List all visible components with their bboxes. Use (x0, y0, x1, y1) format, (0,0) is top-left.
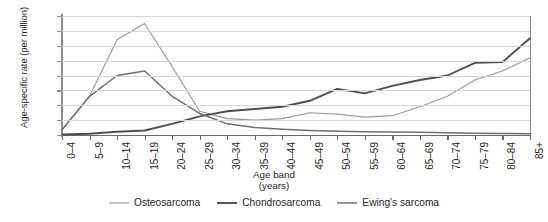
x-tick-mark (475, 135, 476, 140)
x-tick-label: 75–79 (479, 142, 490, 170)
x-tick-label: 60–64 (396, 142, 407, 170)
legend-line-icon (217, 200, 237, 206)
x-tick-label: 15–19 (149, 142, 160, 170)
x-tick-mark (420, 135, 421, 140)
gridline (62, 76, 530, 77)
y-tick-mark (57, 90, 61, 91)
legend-item[interactable]: Chondrosarcoma (217, 197, 320, 208)
legend-item[interactable]: Osteosarcoma (109, 197, 200, 208)
x-tick-label: 45–49 (314, 142, 325, 170)
series-line (62, 71, 530, 134)
y-tick-mark (57, 46, 61, 47)
gridline (62, 120, 530, 121)
legend-label: Chondrosarcoma (242, 197, 320, 208)
x-tick-label: 30–34 (231, 142, 242, 170)
gridline (62, 135, 530, 136)
x-tick-mark (392, 135, 393, 140)
x-axis-title: Age band (years) (0, 170, 548, 191)
gridline (62, 46, 530, 47)
y-tick-mark (57, 105, 61, 106)
x-tick-mark (145, 135, 146, 140)
gridline (62, 90, 530, 91)
x-tick-label: 35–39 (259, 142, 270, 170)
x-tick-mark (447, 135, 448, 140)
y-tick-mark (57, 61, 61, 62)
x-tick-label: 40–44 (286, 142, 297, 170)
x-tick-mark (172, 135, 173, 140)
x-tick-label: 85+ (534, 142, 545, 159)
x-tick-mark (255, 135, 256, 140)
legend-item[interactable]: Ewing's sarcoma (337, 197, 439, 208)
x-tick-mark (365, 135, 366, 140)
x-tick-label: 80–84 (506, 142, 517, 170)
x-tick-label: 65–69 (424, 142, 435, 170)
x-tick-mark (530, 135, 531, 140)
x-tick-label: 0–4 (66, 142, 77, 159)
x-tick-mark (90, 135, 91, 140)
x-tick-mark (502, 135, 503, 140)
x-tick-mark (117, 135, 118, 140)
y-tick-mark (57, 135, 61, 136)
x-tick-mark (62, 135, 63, 140)
legend-line-icon (109, 200, 129, 206)
y-tick-mark (57, 31, 61, 32)
x-tick-mark (282, 135, 283, 140)
chart-legend: OsteosarcomaChondrosarcomaEwing's sarcom… (0, 197, 548, 208)
legend-label: Osteosarcoma (134, 197, 200, 208)
gridline (62, 31, 530, 32)
gridline (62, 105, 530, 106)
y-axis-title: Age-specific rate (per million) (18, 0, 29, 138)
x-tick-label: 55–59 (369, 142, 380, 170)
x-tick-mark (227, 135, 228, 140)
x-tick-label: 25–29 (204, 142, 215, 170)
x-axis-title-line1: Age band (0, 170, 548, 181)
series-line (62, 23, 530, 129)
x-tick-label: 5–9 (94, 142, 105, 159)
x-tick-label: 20–24 (176, 142, 187, 170)
x-tick-mark (310, 135, 311, 140)
gridline (62, 61, 530, 62)
x-tick-mark (200, 135, 201, 140)
x-axis-title-line2: (years) (0, 181, 548, 192)
x-tick-label: 70–74 (451, 142, 462, 170)
y-tick-mark (57, 120, 61, 121)
legend-line-icon (337, 200, 357, 206)
y-tick-mark (57, 76, 61, 77)
x-tick-label: 50–54 (341, 142, 352, 170)
y-tick-mark (57, 16, 61, 17)
gridline (62, 16, 530, 17)
x-tick-label: 10–14 (121, 142, 132, 170)
plot-area (62, 16, 530, 135)
x-tick-mark (337, 135, 338, 140)
chart-figure: Age-specific rate (per million) 01234567… (0, 0, 548, 222)
legend-label: Ewing's sarcoma (362, 197, 439, 208)
